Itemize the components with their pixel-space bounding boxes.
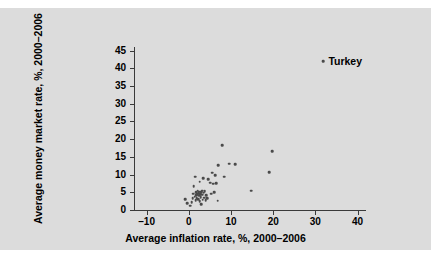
- data-point: [271, 150, 274, 153]
- data-point: [209, 181, 212, 184]
- x-tick-label: 20: [253, 217, 293, 227]
- data-point: [268, 171, 271, 174]
- y-tick-label: 0: [100, 205, 126, 215]
- y-tick-label: 20: [100, 134, 126, 144]
- data-point: [228, 162, 231, 165]
- data-point: [250, 190, 253, 193]
- y-tick-label: 10: [100, 170, 126, 180]
- data-point: [204, 190, 207, 193]
- data-point: [189, 204, 192, 207]
- data-point: [206, 197, 209, 200]
- data-point: [214, 174, 217, 177]
- x-tick-label: 10: [211, 217, 251, 227]
- data-point: [194, 175, 197, 178]
- data-point: [213, 191, 216, 194]
- data-point: [207, 178, 210, 181]
- y-tick-label: 30: [100, 99, 126, 109]
- y-tick-label: 15: [100, 152, 126, 162]
- y-tick-label: 40: [100, 63, 126, 73]
- scatter-chart-figure: 051015202530354045 –10010203040 Average …: [0, 0, 431, 264]
- plot-area: [134, 47, 366, 210]
- y-axis-title: Average money market rate, %, 2000–2006: [32, 24, 44, 224]
- x-axis-line: [134, 210, 366, 211]
- x-axis-title: Average inflation rate, %, 2000–2006: [0, 232, 431, 244]
- y-tick-label: 5: [100, 187, 126, 197]
- data-point: [190, 201, 193, 204]
- point-annotation-label: Turkey: [328, 55, 362, 67]
- x-tick-mark: [315, 211, 316, 215]
- data-point: [200, 203, 203, 206]
- data-point: [322, 60, 325, 63]
- x-tick-mark: [189, 211, 190, 215]
- y-tick-label: 45: [100, 46, 126, 56]
- x-tick-mark: [273, 211, 274, 215]
- data-point: [193, 185, 196, 188]
- x-tick-mark: [358, 211, 359, 215]
- data-point: [234, 163, 237, 166]
- data-point: [216, 199, 219, 202]
- data-point: [199, 180, 202, 183]
- y-tick-label: 25: [100, 116, 126, 126]
- data-point: [184, 198, 187, 201]
- data-point: [217, 164, 220, 167]
- x-tick-label: 0: [169, 217, 209, 227]
- x-tick-label: 30: [295, 217, 335, 227]
- x-tick-label: –10: [127, 217, 167, 227]
- data-point: [223, 175, 226, 178]
- y-tick-label: 35: [100, 81, 126, 91]
- y-tick-mark: [130, 210, 134, 211]
- x-tick-mark: [147, 211, 148, 215]
- data-point: [215, 182, 218, 185]
- data-point: [202, 177, 205, 180]
- data-point: [186, 202, 189, 205]
- data-point: [221, 144, 224, 147]
- x-tick-label: 40: [338, 217, 378, 227]
- x-tick-mark: [231, 211, 232, 215]
